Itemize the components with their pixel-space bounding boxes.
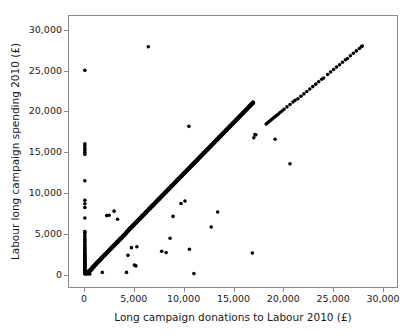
data-point xyxy=(273,138,277,142)
data-point xyxy=(308,87,312,91)
y-tick-label: 0 xyxy=(56,270,62,280)
x-tick-label: 20,000 xyxy=(267,294,300,304)
data-point xyxy=(305,90,309,94)
data-points-layer xyxy=(69,16,397,287)
data-point xyxy=(252,101,256,105)
data-point xyxy=(130,246,134,250)
x-tick-mark xyxy=(134,288,135,292)
data-point xyxy=(322,76,326,80)
data-point xyxy=(171,215,175,219)
data-point xyxy=(282,108,286,112)
data-point xyxy=(125,271,129,275)
data-point xyxy=(361,44,365,48)
data-point xyxy=(88,272,92,276)
data-point xyxy=(352,52,356,56)
x-tick-label: 30,000 xyxy=(366,294,399,304)
data-point xyxy=(179,202,183,206)
data-point xyxy=(83,206,87,210)
clipped-caption-fragment xyxy=(0,0,414,9)
data-point xyxy=(288,162,292,166)
x-tick-mark xyxy=(184,288,185,292)
data-point xyxy=(134,264,138,268)
x-tick-mark xyxy=(383,288,384,292)
x-tick-label: 0 xyxy=(81,294,87,304)
data-point xyxy=(188,247,192,251)
x-tick-mark xyxy=(283,288,284,292)
data-point xyxy=(135,245,139,249)
data-point xyxy=(285,105,289,109)
data-point xyxy=(112,209,116,213)
data-point xyxy=(349,54,353,58)
data-point xyxy=(116,217,120,221)
y-tick-label: 10,000 xyxy=(29,188,62,198)
data-point xyxy=(83,230,87,234)
x-tick-mark xyxy=(234,288,235,292)
data-point xyxy=(314,82,318,86)
data-point xyxy=(326,73,330,77)
plot-area xyxy=(68,15,398,288)
data-point xyxy=(335,65,339,69)
x-tick-label: 10,000 xyxy=(167,294,200,304)
y-tick-label: 25,000 xyxy=(29,66,62,76)
data-point xyxy=(216,210,220,214)
data-point xyxy=(83,142,87,146)
data-point xyxy=(192,272,196,276)
data-point xyxy=(83,216,87,220)
y-axis-title: Labour long campaign spending 2010 (£) xyxy=(8,15,22,288)
x-tick-mark xyxy=(333,288,334,292)
data-point xyxy=(101,271,105,275)
data-point xyxy=(299,95,303,99)
x-tick-mark xyxy=(84,288,85,292)
data-point xyxy=(332,68,336,72)
data-point xyxy=(107,213,111,217)
data-point xyxy=(251,251,255,255)
data-point xyxy=(341,60,345,64)
y-tick-label: 20,000 xyxy=(29,106,62,116)
data-point xyxy=(83,202,87,206)
data-point xyxy=(311,85,315,89)
y-tick-label: 5,000 xyxy=(35,229,62,239)
data-point xyxy=(187,125,191,129)
data-point xyxy=(183,199,187,203)
x-tick-label: 15,000 xyxy=(217,294,250,304)
scatter-plot-figure: Labour long campaign spending 2010 (£) 0… xyxy=(0,0,414,336)
data-point xyxy=(302,92,306,96)
data-point xyxy=(83,179,87,183)
data-point xyxy=(338,63,342,67)
data-point xyxy=(126,254,130,258)
data-point xyxy=(355,49,359,53)
y-tick-label: 30,000 xyxy=(29,25,62,35)
x-tick-label: 25,000 xyxy=(317,294,350,304)
x-axis-title: Long campaign donations to Labour 2010 (… xyxy=(68,311,398,323)
data-point xyxy=(209,225,213,229)
data-point xyxy=(346,57,350,61)
data-point xyxy=(329,70,333,74)
y-tick-label: 15,000 xyxy=(29,147,62,157)
data-point xyxy=(168,237,172,241)
data-point xyxy=(164,251,168,255)
data-point xyxy=(146,45,150,49)
data-point xyxy=(288,103,292,107)
x-tick-label: 5,000 xyxy=(120,294,147,304)
data-point xyxy=(317,80,321,84)
data-point xyxy=(83,69,87,73)
data-point xyxy=(160,250,164,254)
data-point xyxy=(296,97,300,101)
data-point xyxy=(254,133,258,137)
data-point xyxy=(83,198,87,202)
